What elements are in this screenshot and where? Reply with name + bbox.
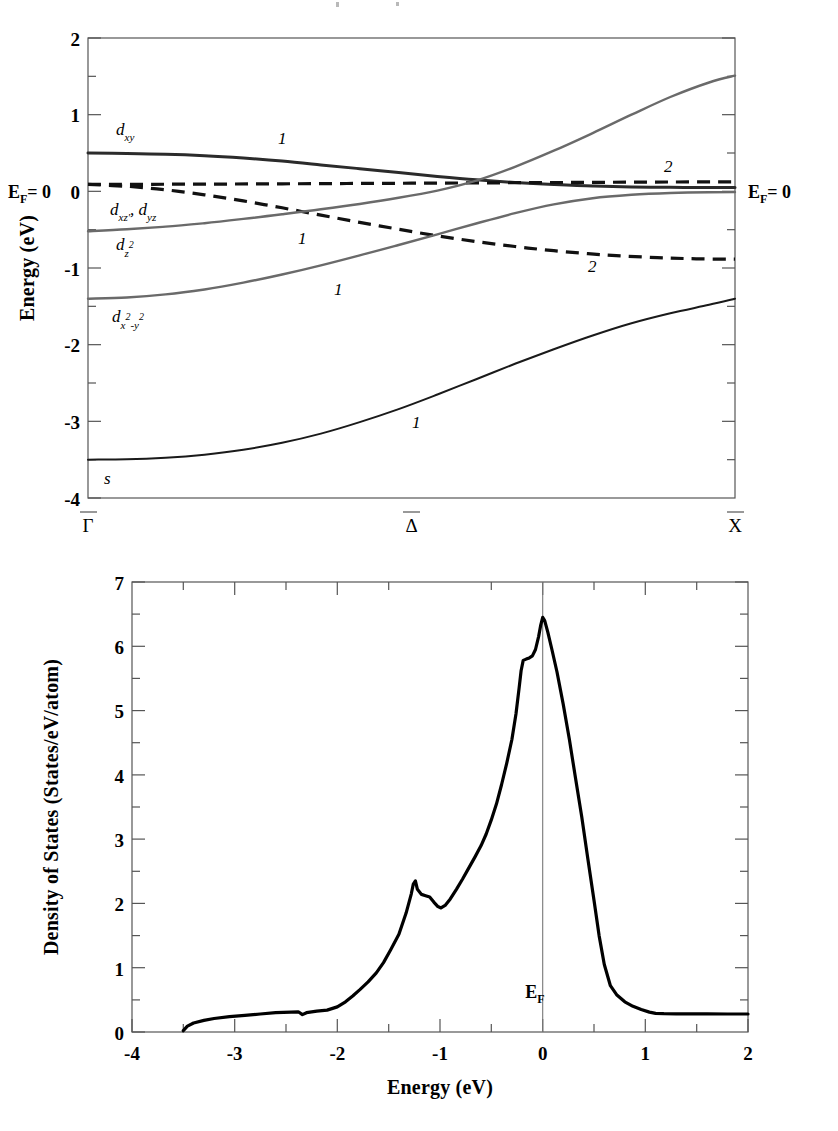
- svg-text:EF= 0: EF= 0: [748, 182, 791, 206]
- fermi-left-E: E: [8, 182, 20, 202]
- band-xtick-x: X: [727, 512, 744, 536]
- band-index-dx2y2: 1: [334, 280, 343, 299]
- orb-dyz-sub: yz: [146, 211, 157, 223]
- band-y-ticks-right: [722, 38, 735, 460]
- dos-x-ticks-top: [183, 582, 696, 595]
- dos-y-ticks-right: [735, 582, 748, 1000]
- band-index-s: 1: [412, 413, 421, 432]
- dos-ytick-1: 1: [115, 959, 125, 980]
- band-index-dxz-lo: 2: [588, 257, 597, 276]
- orbital-label-dz2: dz2: [116, 235, 134, 259]
- orb-dxz-sub: xz': [118, 211, 131, 223]
- dos-xtick-0: 0: [538, 1043, 548, 1064]
- scan-speck: [396, 2, 399, 6]
- dos-ytick-7: 7: [115, 573, 125, 594]
- band-curve-s: [88, 299, 735, 460]
- dos-fermi-label: EF: [525, 982, 544, 1006]
- orb-dxy-sub: xy: [124, 131, 135, 143]
- band-xtick-gamma: Γ: [80, 512, 97, 536]
- dos-xtick-1: 1: [641, 1043, 651, 1064]
- band-ytick-m3: -3: [64, 412, 80, 433]
- dos-fermi-sub: F: [537, 992, 544, 1006]
- dos-xtick-m3: -3: [227, 1043, 243, 1064]
- orbital-label-dxy: dxy: [116, 120, 134, 143]
- band-index-dxz-up: 2: [664, 157, 673, 176]
- band-xtick-x-label: X: [728, 515, 742, 536]
- orbital-label-dxz-dyz: dxz', dyz: [110, 200, 157, 223]
- band-curve-d-x2-y2: [88, 192, 735, 299]
- dos-y-ticks-minor: [132, 614, 140, 1000]
- dos-xtick-m1: -1: [432, 1043, 448, 1064]
- band-ytick-m1: -1: [64, 259, 80, 280]
- band-structure-panel: 2 1 0 -1 -2 -3 -4 Energy (eV) EF= 0 EF= …: [0, 0, 838, 540]
- fermi-right-eq: = 0: [767, 182, 791, 202]
- band-y-axis-title: Energy (eV): [16, 215, 39, 321]
- fermi-right-E: E: [748, 182, 760, 202]
- scan-speck: [336, 2, 339, 7]
- dos-plot-frame: [132, 582, 748, 1032]
- dos-ytick-5: 5: [115, 701, 125, 722]
- band-ytick-0: 0: [71, 182, 81, 203]
- band-index-dz2: 1: [298, 229, 307, 248]
- dos-x-axis-title: Energy (eV): [387, 1076, 493, 1099]
- band-ytick-2: 2: [71, 29, 81, 50]
- dos-ytick-2: 2: [115, 894, 125, 915]
- band-y-ticks-major: [88, 38, 101, 498]
- dos-xtick-m2: -2: [329, 1043, 345, 1064]
- dos-ytick-0: 0: [115, 1023, 125, 1044]
- figure-root: 2 1 0 -1 -2 -3 -4 Energy (eV) EF= 0 EF= …: [0, 0, 838, 1131]
- fermi-label-left: EF= 0: [8, 182, 51, 206]
- dos-xtick-2: 2: [743, 1043, 753, 1064]
- dos-ytick-6: 6: [115, 637, 125, 658]
- orbital-label-dx2y2: dx2-y2: [112, 307, 144, 331]
- dos-fermi-E: E: [525, 982, 537, 1002]
- fermi-right-sub: F: [760, 192, 767, 206]
- dos-svg: 7 6 5 4 3 2 1 0 -4 -3 -2 -1 0 1 2 Energy…: [0, 540, 838, 1131]
- orbital-label-s: s: [104, 469, 111, 488]
- dos-curve: [183, 617, 748, 1030]
- band-xtick-delta: Δ: [403, 512, 420, 536]
- band-xtick-delta-label: Δ: [405, 515, 417, 536]
- orb-dz2-sup: 2: [129, 239, 134, 250]
- dos-ytick-4: 4: [115, 766, 125, 787]
- svg-text:EF= 0: EF= 0: [8, 182, 51, 206]
- band-ytick-1: 1: [71, 105, 81, 126]
- dos-y-axis-title: Density of States (States/eV/atom): [40, 659, 63, 955]
- band-curve-d-xz-d-yz-upper-band-2-: [88, 182, 735, 185]
- band-xtick-gamma-label: Γ: [83, 515, 94, 536]
- dos-xtick-m4: -4: [124, 1043, 140, 1064]
- fermi-left-sub: F: [20, 192, 27, 206]
- dos-x-ticks-major: [132, 1019, 748, 1032]
- fermi-left-eq: = 0: [27, 182, 51, 202]
- band-ytick-m4: -4: [64, 489, 80, 510]
- band-ytick-m2: -2: [64, 335, 80, 356]
- band-structure-svg: 2 1 0 -1 -2 -3 -4 Energy (eV) EF= 0 EF= …: [0, 0, 838, 540]
- band-index-dxy: 1: [278, 129, 287, 148]
- orb-dx2y2-supy: 2: [139, 311, 144, 322]
- density-of-states-panel: 7 6 5 4 3 2 1 0 -4 -3 -2 -1 0 1 2 Energy…: [0, 540, 838, 1131]
- dos-ytick-3: 3: [115, 830, 125, 851]
- fermi-label-right: EF= 0: [748, 182, 791, 206]
